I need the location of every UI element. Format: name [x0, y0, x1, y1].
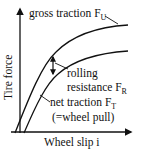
resistance-label: resistance FR — [67, 81, 128, 96]
rolling-label: rolling — [67, 67, 98, 80]
traction-diagram: Tire force Wheel slip i gross traction F… — [0, 0, 141, 151]
gross-traction-label: gross traction FU — [29, 7, 107, 22]
net-traction-label: net traction FT — [50, 96, 116, 111]
wheel-pull-note: (=wheel pull) — [52, 111, 115, 124]
gross-traction-leader — [105, 16, 118, 24]
diagram-canvas: Tire force Wheel slip i gross traction F… — [0, 0, 141, 151]
x-axis-label: Wheel slip i — [44, 136, 100, 149]
y-axis-label: Tire force — [2, 55, 14, 100]
net-traction-leader — [40, 95, 50, 102]
